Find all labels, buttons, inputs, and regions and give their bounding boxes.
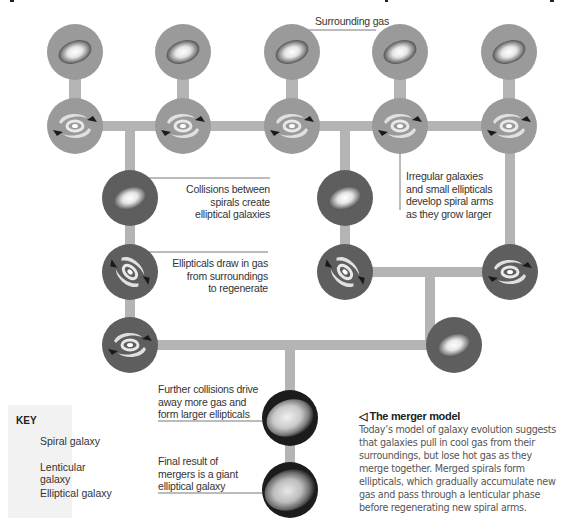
key-item-lenticular: Lenticular galaxy (40, 461, 80, 485)
key-item-spiral: Spiral galaxy (40, 435, 100, 447)
caption-title: ◁ The merger model (359, 410, 559, 423)
label-ellipticals-draw: Ellipticals draw in gas from surrounding… (160, 257, 268, 295)
text-line: develop spiral arms (406, 195, 493, 208)
label-surrounding-gas: Surrounding gas (315, 15, 389, 28)
text-line: from surroundings (160, 270, 268, 283)
text-line: elliptical galaxy (158, 480, 238, 493)
triangle-left-icon: ◁ (359, 410, 367, 422)
text-line: Irregular galaxies (406, 170, 493, 183)
caption: ◁ The merger model Today’s model of gala… (359, 410, 559, 514)
key-title: KEY (16, 415, 37, 426)
label-collisions-spirals: Collisions between spirals create ellipt… (170, 183, 270, 221)
caption-body: Today’s model of galaxy evolution sugges… (359, 424, 556, 513)
text-line: as they grow larger (406, 208, 493, 221)
label-irregular: Irregular galaxies and small ellipticals… (406, 170, 493, 220)
text-line: and small ellipticals (406, 183, 493, 196)
text-line: spirals create (170, 196, 270, 209)
text-line: Further collisions drive (158, 383, 258, 396)
key-item-elliptical: Elliptical galaxy (40, 487, 112, 499)
text-line: Ellipticals draw in gas (160, 257, 268, 270)
galaxy-row-6 (261, 390, 318, 446)
text-line: away more gas and (158, 396, 258, 409)
galaxy-row-1 (47, 24, 537, 80)
caption-title-text: The merger model (369, 410, 460, 422)
text-line: to regenerate (160, 282, 268, 295)
text-line: elliptical galaxies (170, 208, 270, 221)
text-line: Final result of (158, 455, 238, 468)
label-further-collisions: Further collisions drive away more gas a… (158, 383, 258, 421)
label-final-result: Final result of mergers is a giant ellip… (158, 455, 238, 493)
text-line: mergers is a giant (158, 468, 238, 481)
text-line: Collisions between (170, 183, 270, 196)
text-line: form larger ellipticals (158, 408, 258, 421)
galaxy-row-7 (259, 462, 322, 518)
